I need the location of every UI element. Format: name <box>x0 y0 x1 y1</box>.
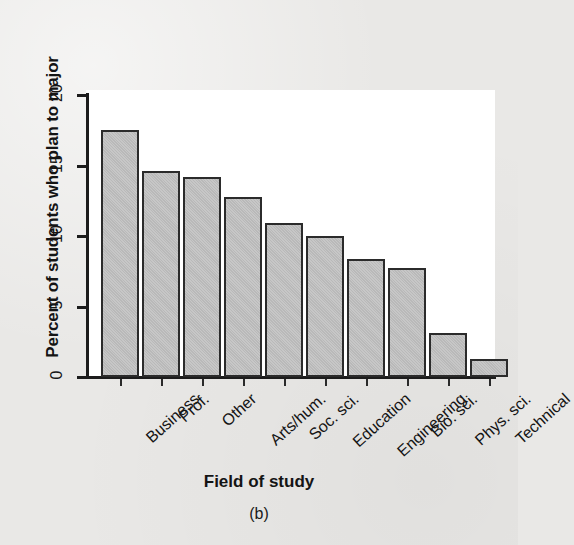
y-axis-tick-label: 20 <box>48 76 66 110</box>
x-axis-tick <box>448 379 450 386</box>
bar-bio-sci <box>388 268 426 377</box>
y-axis-tick <box>77 235 87 238</box>
x-axis-tick <box>202 379 204 386</box>
x-axis-tick <box>325 379 327 386</box>
bar-education <box>306 236 344 377</box>
y-axis-tick <box>77 165 87 168</box>
y-axis-tick-label: 15 <box>48 147 66 181</box>
y-axis-tick-label: 5 <box>48 288 66 322</box>
x-axis-tick <box>284 379 286 386</box>
bar-arts-hum <box>224 197 262 377</box>
x-axis-title: Field of study <box>0 472 518 492</box>
y-axis-tick <box>77 376 87 379</box>
bar-engineering <box>347 259 385 377</box>
bar-prof <box>142 171 180 377</box>
x-axis-tick <box>407 379 409 386</box>
bar-phys-sci <box>429 333 467 377</box>
x-axis-tick <box>366 379 368 386</box>
y-axis-tick-label: 0 <box>48 358 66 392</box>
x-axis-category-label: Other <box>218 390 260 430</box>
y-axis-tick <box>77 306 87 309</box>
bar-technical <box>470 359 508 377</box>
bar-soc-sci <box>265 223 303 377</box>
bar-other <box>183 177 221 377</box>
y-axis-tick <box>77 94 87 97</box>
figure-caption: (b) <box>0 505 518 523</box>
x-axis-tick <box>120 379 122 386</box>
bar-business <box>101 130 139 377</box>
x-axis-tick <box>243 379 245 386</box>
x-axis-tick <box>161 379 163 386</box>
x-axis-tick <box>489 379 491 386</box>
y-axis-tick-label: 10 <box>48 217 66 251</box>
